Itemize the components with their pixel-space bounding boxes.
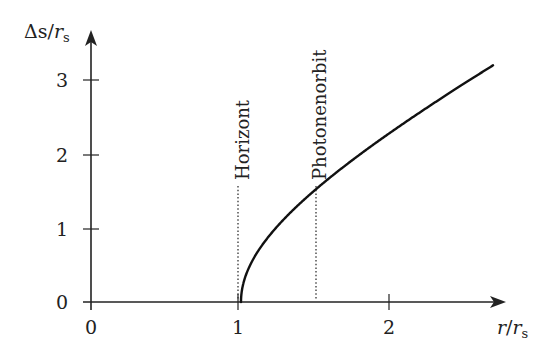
y-tick-label-3: 3 <box>56 69 68 91</box>
horizon-label: Horizont <box>232 99 253 180</box>
y-tick-label-1: 1 <box>56 218 68 240</box>
chart: 0 1 2 0 1 2 3 r/rs Δs/rs Horizont Photon… <box>0 0 557 358</box>
y-tick-label-2: 2 <box>56 144 68 166</box>
y-tick-label-0: 0 <box>56 291 68 313</box>
y-axis-label: Δs/rs <box>24 20 70 45</box>
x-axis-label: r/rs <box>497 316 528 341</box>
x-tick-label-1: 1 <box>232 316 244 338</box>
x-tick-label-2: 2 <box>383 316 395 338</box>
data-curve <box>241 65 493 302</box>
photon-orbit-label: Photonenorbit <box>309 49 330 180</box>
x-tick-label-0: 0 <box>85 316 97 338</box>
